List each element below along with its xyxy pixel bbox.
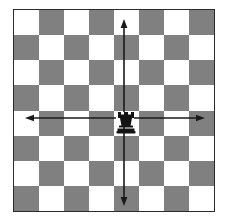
board-square: [39, 85, 64, 110]
board-square: [114, 136, 139, 161]
board-square: [114, 161, 139, 186]
chessboard-grid: [14, 10, 214, 211]
board-square: [189, 111, 214, 136]
board-square: [89, 35, 114, 60]
board-square: [114, 186, 139, 211]
board-square: [14, 111, 39, 136]
board-square: [89, 136, 114, 161]
board-square: [189, 60, 214, 85]
board-square: [14, 186, 39, 211]
rook-movement-diagram: Rook movement on a chessboard An 8 by 8 …: [0, 0, 228, 223]
board-square: [64, 10, 89, 35]
board-square: [114, 35, 139, 60]
board-square: [164, 10, 189, 35]
board-square: [139, 161, 164, 186]
board-square-rook: [114, 111, 139, 136]
board-square: [114, 10, 139, 35]
board-square: [189, 35, 214, 60]
board-square: [64, 136, 89, 161]
board-square: [164, 186, 189, 211]
board-square: [64, 85, 89, 110]
board-square: [164, 60, 189, 85]
board-square: [39, 35, 64, 60]
board-square: [39, 161, 64, 186]
board-square: [164, 85, 189, 110]
board-square: [164, 136, 189, 161]
board-square: [139, 186, 164, 211]
board-square: [114, 85, 139, 110]
board-square: [89, 111, 114, 136]
board-square: [39, 136, 64, 161]
board-square: [39, 111, 64, 136]
board-square: [114, 60, 139, 85]
board-square: [89, 60, 114, 85]
board-square: [89, 10, 114, 35]
board-square: [64, 161, 89, 186]
board-square: [39, 10, 64, 35]
board-square: [139, 136, 164, 161]
board-square: [189, 161, 214, 186]
board-square: [164, 111, 189, 136]
board-square: [14, 85, 39, 110]
board-square: [139, 85, 164, 110]
chessboard: [13, 9, 215, 212]
board-square: [14, 10, 39, 35]
board-square: [189, 186, 214, 211]
board-square: [164, 161, 189, 186]
board-square: [39, 186, 64, 211]
board-square: [39, 60, 64, 85]
board-square: [139, 60, 164, 85]
board-square: [14, 60, 39, 85]
board-square: [139, 111, 164, 136]
board-square: [64, 111, 89, 136]
board-square: [14, 161, 39, 186]
board-square: [164, 35, 189, 60]
board-square: [189, 10, 214, 35]
board-square: [64, 35, 89, 60]
board-square: [189, 85, 214, 110]
board-square: [89, 161, 114, 186]
board-square: [139, 10, 164, 35]
board-square: [64, 60, 89, 85]
board-square: [89, 186, 114, 211]
board-square: [14, 136, 39, 161]
board-square: [64, 186, 89, 211]
board-square: [14, 35, 39, 60]
board-square: [139, 35, 164, 60]
board-square: [89, 85, 114, 110]
board-square: [189, 136, 214, 161]
